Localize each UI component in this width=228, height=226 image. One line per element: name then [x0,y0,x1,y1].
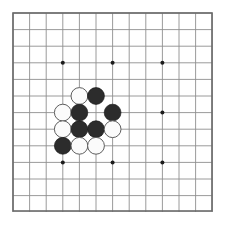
star-point [160,61,164,65]
black-stone[interactable] [88,88,105,105]
go-board-container[interactable] [12,12,213,212]
white-stone[interactable] [54,121,71,138]
black-stone[interactable] [71,121,88,138]
star-point [111,61,115,65]
star-point [61,61,65,65]
screenshot-root [0,0,228,226]
star-point [111,160,115,164]
white-stone[interactable] [88,137,105,154]
white-stone[interactable] [54,104,71,121]
black-stone[interactable] [71,104,88,121]
black-stone[interactable] [54,137,71,154]
star-point [160,160,164,164]
white-stone[interactable] [104,121,121,138]
black-stone[interactable] [104,104,121,121]
black-stone[interactable] [88,121,105,138]
star-point [160,111,164,115]
white-stone[interactable] [71,88,88,105]
go-board-canvas[interactable] [12,12,213,212]
star-point [61,160,65,164]
white-stone[interactable] [71,137,88,154]
